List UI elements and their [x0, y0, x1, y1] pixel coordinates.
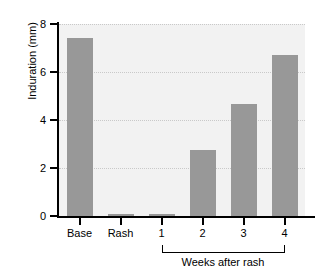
- y-tick-mark-0: [50, 215, 57, 217]
- weeks-group-label: Weeks after rash: [102, 256, 329, 269]
- bar-2: [190, 150, 216, 216]
- x-tick-mark-4: [284, 218, 286, 225]
- x-tick-mark-2: [202, 218, 204, 225]
- y-tick-label-8: 8: [26, 19, 46, 30]
- bar-3: [231, 104, 257, 216]
- x-tick-mark-rash: [120, 218, 122, 225]
- y-tick-mark-8: [50, 23, 57, 25]
- gridline-2: [59, 168, 305, 170]
- y-tick-label-0: 0: [26, 211, 46, 222]
- weeks-group-bracket: [162, 245, 285, 253]
- y-tick-mark-4: [50, 119, 57, 121]
- bar-4: [272, 55, 298, 216]
- y-tick-label-4: 4: [26, 115, 46, 126]
- y-tick-label-2: 2: [26, 163, 46, 174]
- y-tick-label-6: 6: [26, 67, 46, 78]
- gridline-8: [59, 24, 305, 26]
- x-tick-label-4: 4: [255, 227, 315, 240]
- x-axis-line: [57, 216, 315, 218]
- bar-1: [149, 214, 175, 216]
- x-tick-mark-3: [243, 218, 245, 225]
- y-tick-mark-2: [50, 167, 57, 169]
- gridline-4: [59, 120, 305, 122]
- bar-chart-figure: Induration (mm) 02468 BaseRash1234 Weeks…: [0, 0, 329, 278]
- x-tick-mark-base: [79, 218, 81, 225]
- y-tick-mark-6: [50, 71, 57, 73]
- x-tick-mark-1: [161, 218, 163, 225]
- bar-base: [67, 38, 93, 216]
- gridline-6: [59, 72, 305, 74]
- bar-rash: [108, 214, 134, 216]
- plot-area: [59, 24, 305, 216]
